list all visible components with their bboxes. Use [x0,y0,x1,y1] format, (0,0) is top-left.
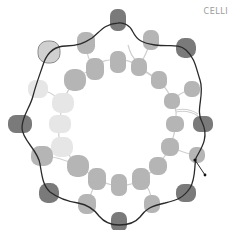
outer-bead [39,183,59,203]
inner-bead [67,155,89,177]
inner-bead [132,168,150,190]
inner-bead [86,58,104,80]
middle-bead [143,30,159,50]
middle-bead [77,32,95,54]
inner-bead [110,51,126,73]
outer-bead [38,41,60,63]
inner-bead [164,93,180,109]
inner-bead [52,93,74,113]
middle-bead [184,81,200,97]
middle-bead [28,80,48,98]
outer-bead [110,9,126,31]
inner-bead [166,116,184,132]
arrow-head [204,174,207,177]
outer-bead [176,38,196,58]
inner-bead [161,138,179,156]
middle-bead [31,146,53,166]
figure-label: CELLI [204,7,228,16]
inner-bead [131,58,147,76]
cell-ring-diagram [0,0,231,230]
inner-bead [64,69,86,91]
inner-bead [151,71,167,89]
inner-bead [111,174,127,196]
outer-bead [8,115,32,133]
inner-bead [49,115,71,133]
outer-bead [111,212,127,230]
arrow-dot [193,158,196,161]
inner-bead [51,137,73,157]
inner-bead [149,157,167,175]
inner-bead [88,168,106,190]
